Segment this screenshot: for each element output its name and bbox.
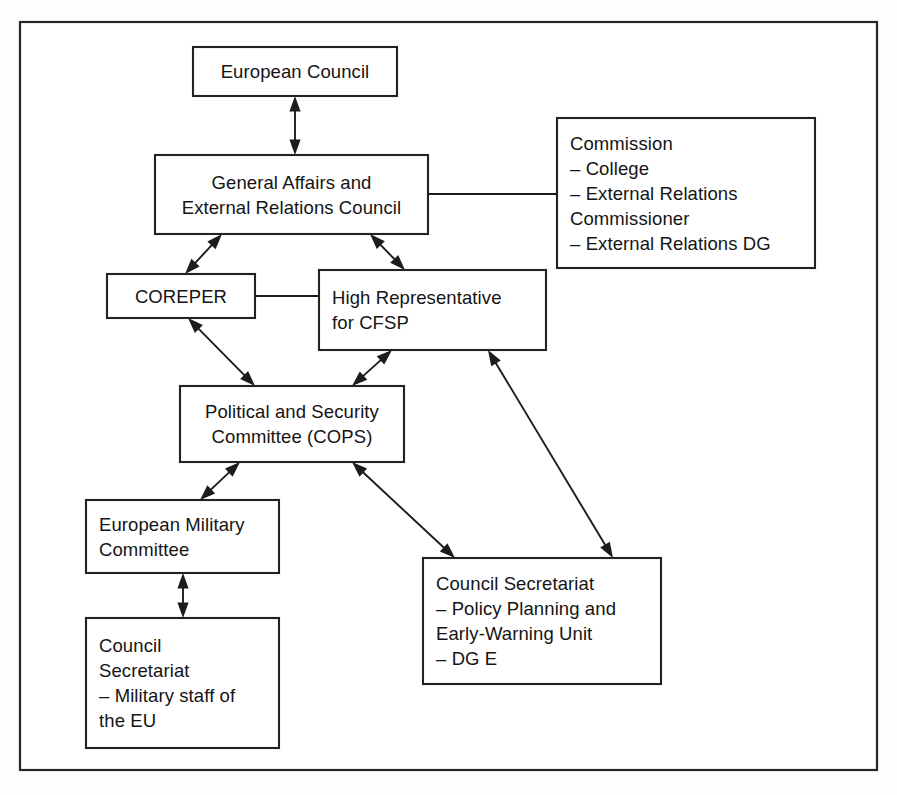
council-secretariat-policy-planning-box-line-4: – DG E	[436, 648, 497, 669]
european-military-committee-box-line-1: European Military	[99, 514, 245, 535]
european-military-committee-box-rect	[86, 500, 279, 573]
council-secretariat-military-staff-box-line-2: Secretariat	[99, 660, 190, 681]
diagram-root: European CouncilGeneral Affairs andExter…	[0, 0, 897, 795]
european-military-committee-box-line-2: Committee	[99, 539, 189, 560]
political-security-committee-box-line-2: Committee (COPS)	[212, 426, 373, 447]
council-secretariat-military-staff-box: CouncilSecretariat– Military staff of th…	[86, 618, 279, 748]
council-secretariat-military-staff-box-line-1: Council	[99, 635, 161, 656]
council-secretariat-policy-planning-box: Council Secretariat– Policy Planning and…	[423, 558, 661, 684]
european-military-committee-box: European MilitaryCommittee	[86, 500, 279, 573]
commission-box-line-3: – External Relations	[570, 183, 738, 204]
commission-box-line-2: – College	[570, 158, 649, 179]
political-security-committee-box-line-1: Political and Security	[205, 401, 380, 422]
commission-box-line-5: – External Relations DG	[570, 233, 771, 254]
council-secretariat-policy-planning-box-line-3: Early-Warning Unit	[436, 623, 592, 644]
high-representative-cfsp-box-line-1: High Representative	[332, 287, 502, 308]
commission-box-line-4: Commissioner	[570, 208, 689, 229]
high-representative-cfsp-box-line-2: for CFSP	[332, 312, 409, 333]
high-representative-cfsp-box: High Representativefor CFSP	[319, 270, 546, 350]
political-security-committee-box: Political and SecurityCommittee (COPS)	[180, 386, 404, 462]
general-affairs-external-relations-council-box-line-2: External Relations Council	[182, 197, 402, 218]
commission-box: Commission– College– External Relations …	[557, 118, 815, 268]
organization-diagram: European CouncilGeneral Affairs andExter…	[0, 0, 897, 795]
council-secretariat-policy-planning-box-line-2: – Policy Planning and	[436, 598, 616, 619]
commission-box-line-1: Commission	[570, 133, 673, 154]
general-affairs-external-relations-council-box-rect	[155, 155, 428, 234]
coreper-box-line-1: COREPER	[135, 286, 227, 307]
council-secretariat-policy-planning-box-line-1: Council Secretariat	[436, 573, 594, 594]
european-council-box-line-1: European Council	[221, 61, 370, 82]
political-security-committee-box-rect	[180, 386, 404, 462]
council-secretariat-military-staff-box-line-4: the EU	[99, 710, 156, 731]
general-affairs-external-relations-council-box: General Affairs andExternal Relations Co…	[155, 155, 428, 234]
coreper-box: COREPER	[107, 274, 255, 318]
high-representative-cfsp-box-rect	[319, 270, 546, 350]
european-council-box: European Council	[193, 47, 397, 96]
general-affairs-external-relations-council-box-line-1: General Affairs and	[212, 172, 372, 193]
council-secretariat-military-staff-box-line-3: – Military staff of	[99, 685, 236, 706]
